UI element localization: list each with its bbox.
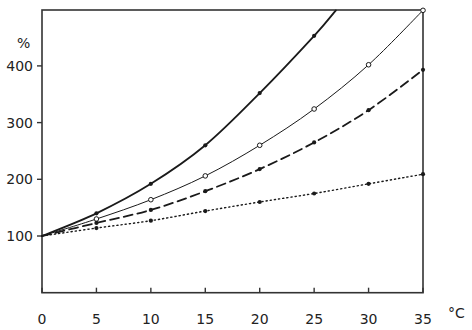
open-marker [257,143,262,148]
series-line [42,10,336,236]
open-marker [94,217,99,222]
x-tick-label: 25 [305,311,323,327]
filled-marker [312,191,316,195]
y-tick-label: 200 [6,171,33,187]
filled-marker [421,68,425,72]
open-marker [421,8,426,13]
open-marker [149,197,154,202]
filled-marker [366,182,370,186]
series-solid-thick [42,10,336,236]
series-line [42,174,423,236]
x-tick-label: 30 [360,311,378,327]
y-axis-unit-label: % [17,35,30,51]
y-tick-label: 300 [6,115,33,131]
x-axis-ticks: 05101520253035 [38,288,432,327]
series-line [42,10,423,236]
filled-marker [258,91,262,95]
x-tick-label: 5 [92,311,101,327]
filled-marker [94,226,98,230]
y-axis-ticks: 100200300400 [6,58,42,244]
y-tick-label: 100 [6,228,33,244]
filled-marker [149,182,153,186]
filled-marker [421,172,425,176]
open-marker [312,107,317,112]
line-chart: 05101520253035 100200300400 % °C [0,0,472,330]
plot-frame [42,10,423,293]
y-tick-label: 400 [6,58,33,74]
filled-marker [312,34,316,38]
filled-marker [94,221,98,225]
filled-marker [203,189,207,193]
x-tick-label: 0 [38,311,47,327]
filled-marker [149,219,153,223]
filled-marker [149,208,153,212]
filled-marker [366,108,370,112]
open-marker [203,174,208,179]
x-tick-label: 35 [414,311,432,327]
series-dotted [42,172,425,236]
filled-marker [312,140,316,144]
filled-marker [258,200,262,204]
filled-marker [94,211,98,215]
data-series [42,8,425,236]
open-marker [366,62,371,67]
x-tick-label: 20 [251,311,269,327]
series-dashed [42,68,425,236]
filled-marker [203,209,207,213]
x-tick-label: 10 [142,311,160,327]
series-solid-thin [42,8,425,236]
filled-marker [258,167,262,171]
x-tick-label: 15 [196,311,214,327]
filled-marker [203,143,207,147]
x-axis-unit-label: °C [448,305,465,321]
